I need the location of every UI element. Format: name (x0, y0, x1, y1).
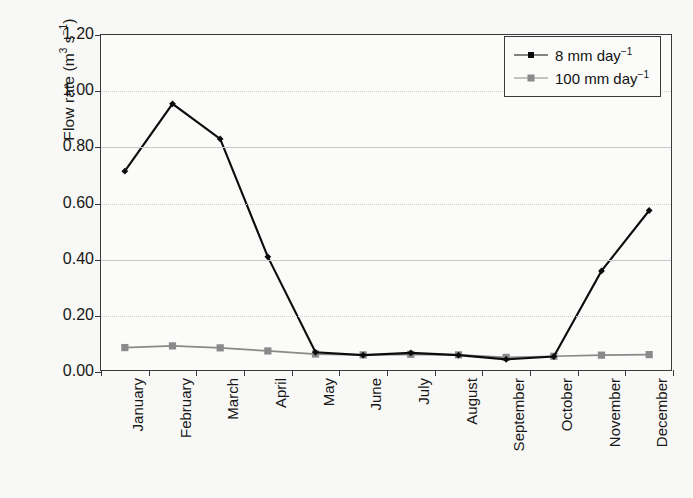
series-line (125, 104, 649, 360)
x-tick-label: March (224, 378, 241, 420)
x-tick-label: February (177, 378, 194, 438)
x-tick-label: April (272, 378, 289, 408)
x-tick-label: June (367, 378, 384, 411)
x-tick-label: July (415, 378, 432, 405)
x-tick-label: May (320, 378, 337, 406)
line-chart: Flow rate (m3 s−1) 0.000.200.400.600.801… (0, 0, 693, 498)
gridline (101, 260, 671, 261)
series-marker-square (264, 347, 271, 354)
legend-key-diamond-icon (514, 48, 548, 62)
y-tick-mark (95, 316, 101, 317)
y-tick-mark (95, 260, 101, 261)
series-marker-square (121, 344, 128, 351)
legend-item-0: 8 mm day−1 (514, 44, 649, 65)
gridline (101, 204, 671, 205)
y-tick-mark (95, 35, 101, 36)
series-marker-square (169, 342, 176, 349)
x-tick-label: January (129, 378, 146, 431)
series-line (125, 346, 649, 358)
legend-key-square-icon (514, 71, 548, 85)
y-tick-label: 0.20 (38, 306, 94, 324)
x-tick-label: August (463, 378, 480, 425)
x-tick-label: November (606, 378, 623, 447)
gridline (101, 147, 671, 148)
y-tick-mark (95, 147, 101, 148)
x-tick-mark (673, 370, 674, 376)
legend: 8 mm day−1 100 mm day−1 (504, 36, 661, 97)
y-tick-mark (95, 91, 101, 92)
x-tick-label: September (510, 378, 527, 451)
legend-label-0-sup: −1 (621, 46, 632, 57)
y-tick-mark (95, 204, 101, 205)
x-axis-tick-labels: JanuaryFebruaryMarchAprilMayJuneJulyAugu… (100, 376, 672, 496)
x-tick-label: October (558, 378, 575, 431)
y-tick-label: 0.40 (38, 250, 94, 268)
y-tick-label: 0.80 (38, 137, 94, 155)
legend-label-1-sup: −1 (638, 69, 649, 80)
series-marker-square (598, 352, 605, 359)
series-marker-square (646, 351, 653, 358)
gridline (101, 316, 671, 317)
y-axis-tick-labels: 0.000.200.400.600.801.001.20 (36, 0, 94, 498)
legend-label-1-text: 100 mm day (555, 70, 638, 87)
legend-label-0: 8 mm day−1 (555, 46, 632, 64)
y-tick-label: 1.00 (38, 81, 94, 99)
y-tick-label: 1.20 (38, 25, 94, 43)
legend-label-0-text: 8 mm day (555, 47, 621, 64)
x-tick-label: December (653, 378, 670, 447)
y-tick-label: 0.60 (38, 194, 94, 212)
legend-label-1: 100 mm day−1 (555, 69, 649, 87)
y-tick-label: 0.00 (38, 362, 94, 380)
legend-item-1: 100 mm day−1 (514, 67, 649, 88)
series-marker-square (217, 344, 224, 351)
